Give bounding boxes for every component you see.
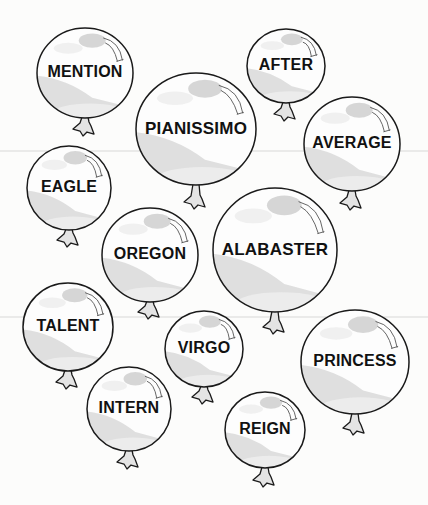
balloon[interactable]: INTERN (83, 363, 175, 474)
balloon-shape (221, 388, 309, 492)
balloon-word: TALENT (19, 317, 117, 335)
balloon-word: MENTION (33, 63, 137, 81)
balloon-knot (274, 102, 295, 121)
balloon-knot (117, 450, 138, 469)
balloon[interactable]: PRINCESS (297, 306, 413, 440)
balloon-word: PRINCESS (297, 352, 413, 370)
balloon-knot (57, 229, 78, 247)
balloon-word: AVERAGE (300, 134, 404, 152)
balloon-shape (83, 363, 175, 474)
balloon-word: EAGLE (23, 178, 115, 196)
balloon-knot (192, 386, 213, 404)
balloon-knot (56, 370, 77, 389)
balloon[interactable]: REIGN (221, 388, 309, 492)
balloon-knot (263, 311, 284, 334)
balloon-knot (340, 190, 361, 210)
balloon-knot (138, 301, 159, 319)
balloon-word: INTERN (83, 399, 175, 417)
balloon-word: OREGON (98, 245, 202, 263)
balloon-knot (343, 413, 364, 435)
balloon-shape (33, 24, 137, 141)
balloon-knot (253, 467, 274, 487)
balloon-word: ALABASTER (209, 240, 341, 260)
balloon-knot (73, 117, 94, 136)
balloon-shape (297, 306, 413, 440)
balloon-word: VIRGO (161, 339, 247, 357)
balloon-canvas: MENTION AFTER PIANISSIMO AVERAGE EAGLE O… (0, 0, 428, 505)
balloon-word: PIANISSIMO (132, 119, 260, 139)
balloon-word: REIGN (221, 420, 309, 438)
balloon[interactable]: MENTION (33, 24, 137, 141)
